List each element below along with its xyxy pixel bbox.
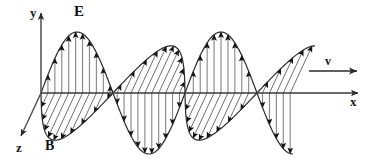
field-vector xyxy=(276,58,292,93)
field-vector xyxy=(173,69,184,93)
field-vector xyxy=(145,47,167,93)
em-wave-canvas: y x z E B v xyxy=(0,0,371,164)
field-vector xyxy=(82,93,97,124)
field-vector xyxy=(94,93,103,112)
field-vector xyxy=(189,93,207,132)
field-vector xyxy=(45,93,62,130)
field-vector xyxy=(199,93,221,140)
field-vector xyxy=(217,93,235,132)
labels-group: y x z E B v xyxy=(16,3,357,155)
velocity-label: v xyxy=(325,54,331,68)
field-vector xyxy=(41,93,48,107)
field-vector xyxy=(241,93,249,110)
field-vector xyxy=(166,58,182,93)
field-vector xyxy=(54,93,76,140)
z-axis-line xyxy=(21,93,41,136)
field-vector xyxy=(131,60,147,93)
field-vector xyxy=(179,82,184,93)
em-wave-figure: y x z E B v xyxy=(0,0,371,164)
z-axis-label: z xyxy=(16,140,22,155)
field-vector xyxy=(269,69,280,93)
field-vector xyxy=(187,93,201,122)
y-axis-label: y xyxy=(30,5,37,20)
electric-field-label: E xyxy=(74,3,84,19)
field-vector xyxy=(263,82,268,93)
field-vector xyxy=(290,46,312,93)
magnetic-field-label: B xyxy=(45,138,54,153)
field-vector xyxy=(228,93,242,122)
x-axis-label: x xyxy=(350,94,357,109)
field-vector xyxy=(186,93,194,110)
field-vector xyxy=(42,93,54,120)
